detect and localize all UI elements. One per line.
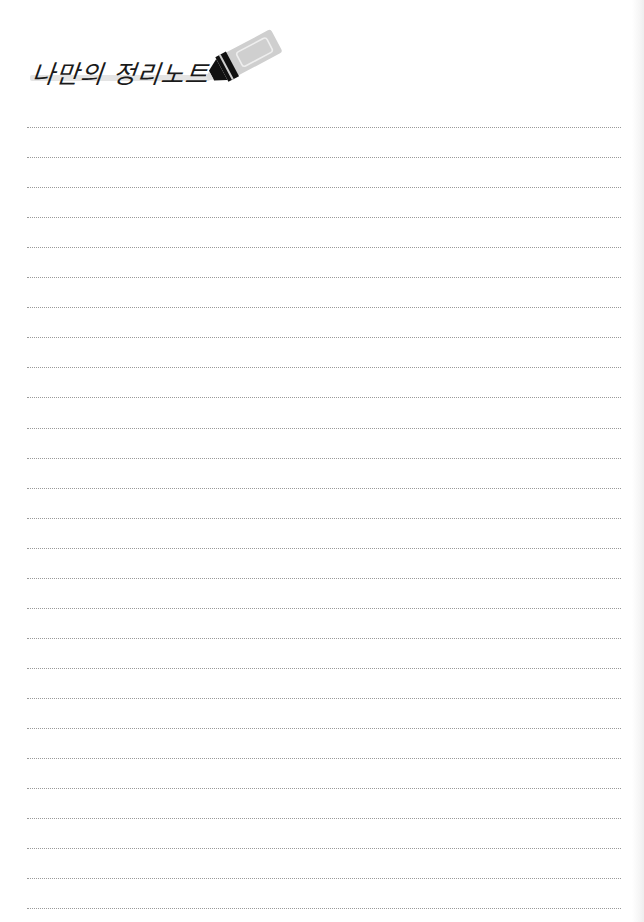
writing-line bbox=[27, 458, 621, 459]
writing-line bbox=[27, 247, 621, 248]
writing-line bbox=[27, 187, 621, 188]
writing-line bbox=[27, 217, 621, 218]
writing-line bbox=[27, 337, 621, 338]
writing-line bbox=[27, 548, 621, 549]
writing-line bbox=[27, 818, 621, 819]
writing-line bbox=[27, 488, 621, 489]
writing-line bbox=[27, 788, 621, 789]
note-header: 나만의 정리노트 bbox=[28, 30, 288, 100]
writing-line bbox=[27, 638, 621, 639]
writing-line bbox=[27, 878, 621, 879]
writing-line bbox=[27, 698, 621, 699]
writing-line bbox=[27, 608, 621, 609]
writing-line bbox=[27, 367, 621, 368]
writing-line bbox=[27, 518, 621, 519]
writing-line bbox=[27, 307, 621, 308]
highlighter-marker-icon bbox=[198, 29, 298, 89]
page-title: 나만의 정리노트 bbox=[30, 54, 211, 90]
writing-line bbox=[27, 127, 621, 128]
writing-line bbox=[27, 668, 621, 669]
writing-line bbox=[27, 728, 621, 729]
writing-line bbox=[27, 277, 621, 278]
writing-line bbox=[27, 428, 621, 429]
writing-line bbox=[27, 848, 621, 849]
note-page: 나만의 정리노트 bbox=[0, 0, 644, 922]
writing-line bbox=[27, 758, 621, 759]
writing-line bbox=[27, 397, 621, 398]
writing-line bbox=[27, 578, 621, 579]
writing-line bbox=[27, 157, 621, 158]
writing-line bbox=[27, 908, 621, 909]
